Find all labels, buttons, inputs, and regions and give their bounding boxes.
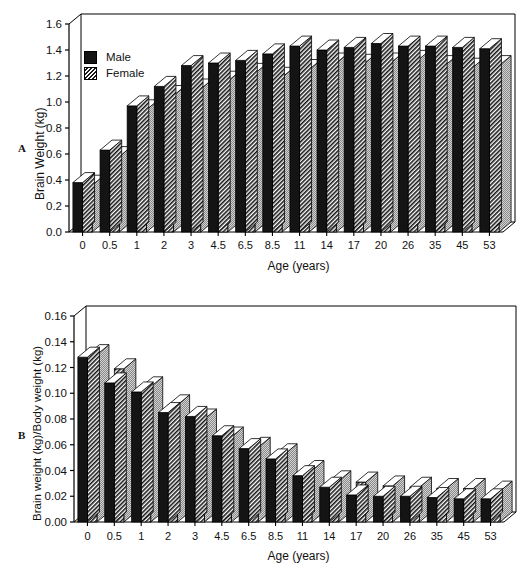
- panel-a: A Brain Weight (kg) Age (years) 0.00.20.…: [0, 0, 525, 290]
- panel-a-plot: [0, 0, 525, 290]
- panel-a-legend: Male Female: [84, 50, 144, 82]
- legend-label-male: Male: [106, 51, 131, 63]
- legend-swatch-female-icon: [84, 67, 97, 80]
- legend-label-female: Female: [106, 67, 144, 79]
- legend-entry-male: Male: [84, 50, 144, 64]
- panel-b-plot: [0, 289, 525, 579]
- legend-entry-female: Female: [84, 66, 144, 80]
- legend-swatch-male-icon: [84, 51, 97, 64]
- panel-b: B Brain weight (kg)/Body weight (kg) Age…: [0, 289, 525, 579]
